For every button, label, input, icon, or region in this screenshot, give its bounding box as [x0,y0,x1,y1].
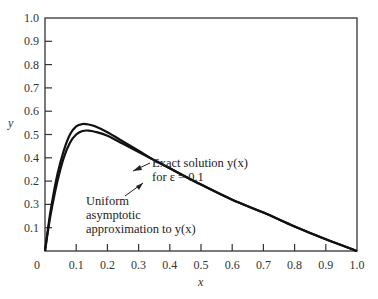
svg-text:0.1: 0.1 [24,221,39,235]
svg-text:0: 0 [34,258,40,272]
svg-text:asymptotic: asymptotic [86,208,141,222]
svg-text:0.4: 0.4 [162,258,177,272]
svg-text:0.8: 0.8 [24,58,39,72]
svg-text:0.2: 0.2 [24,174,39,188]
svg-text:0.5: 0.5 [194,258,209,272]
svg-text:0.3: 0.3 [24,197,39,211]
svg-text:1.0: 1.0 [24,11,39,25]
svg-text:0.3: 0.3 [131,258,146,272]
svg-text:0.9: 0.9 [24,34,39,48]
svg-text:approximation to y(x): approximation to y(x) [86,222,196,236]
svg-text:0.7: 0.7 [24,81,39,95]
annotation-exact-solution: Exact solution y(x) for ε = 0.1 [133,156,248,184]
svg-text:0.5: 0.5 [24,128,39,142]
svg-text:for ε = 0.1: for ε = 0.1 [152,170,204,184]
x-axis-ticks: 00.10.20.30.40.50.60.70.80.91.0 [34,244,365,272]
annotation-uniform-approximation: Uniform asymptotic approximation to y(x) [86,183,196,236]
x-axis-title: x [197,275,204,289]
svg-text:0.1: 0.1 [69,258,84,272]
svg-text:Uniform: Uniform [86,194,129,208]
line-chart: 0.10.30.20.40.50.60.70.80.91.0 00.10.20.… [0,0,378,299]
y-axis-ticks: 0.10.30.20.40.50.60.70.80.91.0 [24,11,52,235]
svg-text:0.8: 0.8 [287,258,302,272]
y-axis-title: y [7,116,14,130]
svg-text:0.6: 0.6 [225,258,240,272]
svg-text:0.4: 0.4 [24,151,39,165]
svg-text:Exact solution y(x): Exact solution y(x) [152,156,248,170]
svg-text:0.9: 0.9 [318,258,333,272]
svg-text:0.6: 0.6 [24,104,39,118]
svg-text:0.2: 0.2 [100,258,115,272]
svg-text:1.0: 1.0 [350,258,365,272]
svg-text:0.7: 0.7 [256,258,271,272]
